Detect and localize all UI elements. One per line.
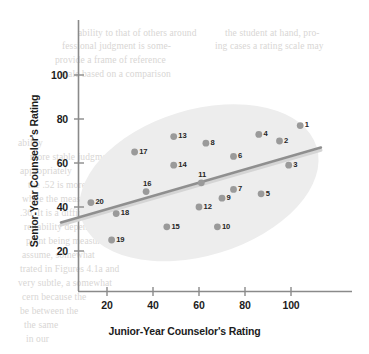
data-point-label: 2 — [284, 136, 288, 145]
data-point-label: 10 — [222, 222, 230, 231]
x-tick-label-100: 100 — [276, 299, 306, 311]
data-point — [230, 186, 237, 193]
data-point — [170, 133, 177, 140]
y-tick-label-80: 80 — [38, 113, 68, 125]
data-point-label: 11 — [198, 170, 206, 179]
x-tick-label-40: 40 — [138, 299, 168, 311]
y-tick-label-20: 20 — [38, 245, 68, 257]
y-axis-title: Senior-Year Counselor's Rating — [28, 56, 40, 286]
data-point-label: 3 — [293, 160, 297, 169]
y-tick-label-100: 100 — [38, 69, 68, 81]
data-point — [198, 179, 205, 186]
data-point — [88, 199, 95, 206]
data-point-label: 16 — [143, 179, 151, 188]
y-tick-label-60: 60 — [38, 157, 68, 169]
data-point-label: 14 — [178, 160, 186, 169]
data-point — [113, 210, 120, 217]
data-point-label: 6 — [238, 151, 242, 160]
data-point — [108, 237, 115, 244]
data-point — [170, 162, 177, 169]
data-point — [163, 223, 170, 230]
data-point-label: 13 — [178, 131, 186, 140]
data-point — [297, 122, 304, 129]
data-point — [276, 138, 283, 145]
data-point-label: 5 — [266, 189, 270, 198]
data-point — [196, 204, 203, 211]
data-point — [285, 162, 292, 169]
x-tick-label-80: 80 — [230, 299, 260, 311]
x-axis-title: Junior-Year Counselor's Rating — [0, 325, 369, 337]
data-point-label: 15 — [171, 222, 179, 231]
data-point-label: 7 — [238, 184, 242, 193]
data-point-label: 9 — [227, 193, 231, 202]
data-point-label: 4 — [263, 129, 267, 138]
data-point — [131, 149, 138, 156]
data-point — [143, 188, 150, 195]
data-point — [258, 190, 265, 197]
y-tick-label-40: 40 — [38, 201, 68, 213]
data-point — [230, 153, 237, 160]
data-point-label: 20 — [96, 197, 104, 206]
data-point — [203, 140, 210, 147]
data-point-label: 8 — [211, 138, 215, 147]
data-point-label: 1 — [305, 120, 309, 129]
scatter-plot-figure: ability to that of others aroundthe stud… — [0, 0, 369, 354]
x-tick-label-20: 20 — [92, 299, 122, 311]
data-point-label: 18 — [121, 208, 129, 217]
data-point-label: 17 — [139, 147, 147, 156]
data-point — [219, 195, 226, 202]
x-tick-label-60: 60 — [184, 299, 214, 311]
data-point — [255, 131, 262, 138]
data-point-label: 12 — [204, 202, 212, 211]
data-point-label: 19 — [116, 235, 124, 244]
data-point — [214, 223, 221, 230]
